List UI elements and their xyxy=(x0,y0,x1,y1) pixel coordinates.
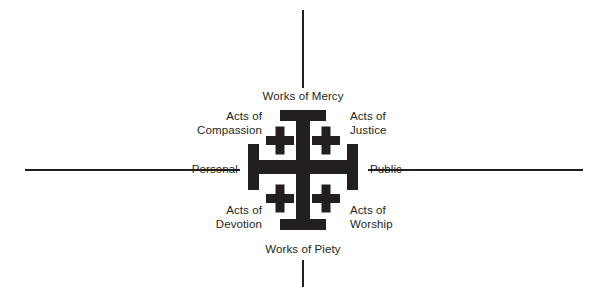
axis-line-vertical-bottom xyxy=(302,260,304,287)
quadrant-label-acts-of-worship: Acts of Worship xyxy=(350,204,454,231)
axis-label-works-of-piety: Works of Piety xyxy=(243,243,363,257)
axis-label-public: Public xyxy=(370,163,458,177)
axis-label-personal: Personal xyxy=(150,163,238,177)
diagram-canvas: Works of Mercy Works of Piety Personal P… xyxy=(0,0,605,287)
axis-label-works-of-mercy: Works of Mercy xyxy=(243,90,363,104)
axis-line-vertical-top xyxy=(302,10,304,88)
quadrant-label-acts-of-compassion: Acts of Compassion xyxy=(158,110,262,137)
quadrant-label-acts-of-devotion: Acts of Devotion xyxy=(158,204,262,231)
quadrant-label-acts-of-justice: Acts of Justice xyxy=(350,110,454,137)
